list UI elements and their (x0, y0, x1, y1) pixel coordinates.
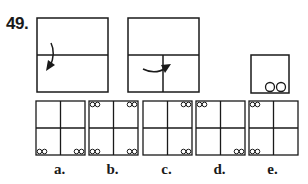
hole-icon (90, 149, 95, 154)
hole-icon (250, 149, 255, 154)
question-number: 49. (6, 14, 28, 34)
hole-icon (181, 102, 186, 107)
answer-label-b: b. (88, 161, 137, 178)
fold-step-3-punched (250, 54, 292, 96)
curved-arrow-right-icon (143, 64, 171, 73)
answer-option-b[interactable] (88, 100, 140, 157)
fold-step-1 (36, 17, 110, 94)
answer-option-d[interactable] (195, 100, 247, 157)
hole-icon (266, 83, 275, 92)
answer-label-e: e. (248, 161, 297, 178)
hole-icon (127, 102, 132, 107)
answer-option-e[interactable] (248, 100, 300, 157)
hole-icon (181, 149, 186, 154)
hole-icon (250, 102, 255, 107)
answer-label-c: c. (142, 161, 191, 178)
hole-icon (90, 102, 95, 107)
curved-arrow-down-icon (46, 43, 55, 71)
hole-icon (74, 149, 79, 154)
answer-option-c[interactable] (142, 100, 194, 157)
hole-icon (197, 102, 202, 107)
answer-label-d: d. (195, 161, 244, 178)
hole-icon (127, 149, 132, 154)
hole-icon (277, 83, 286, 92)
answer-label-a: a. (35, 161, 84, 178)
fold-step-2 (127, 17, 201, 94)
hole-icon (234, 149, 239, 154)
hole-icon (37, 149, 42, 154)
answer-option-a[interactable] (35, 100, 87, 157)
